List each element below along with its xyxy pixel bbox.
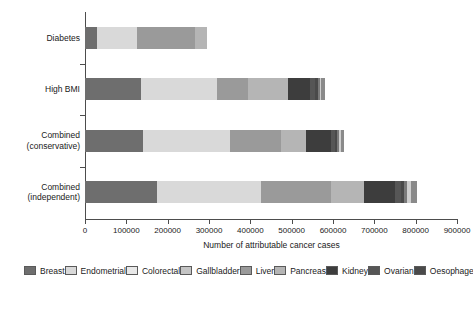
y-axis-label-line: (independent) <box>2 192 80 203</box>
legend-item-breast[interactable]: Breast <box>24 263 65 278</box>
bar-segment-breast <box>85 130 143 152</box>
legend-swatch-breast <box>24 266 36 275</box>
bar-segment-liver <box>230 130 282 152</box>
x-axis-tick-label: 700000 <box>361 226 388 236</box>
bar-segment-endometrial <box>157 181 260 203</box>
bar-2 <box>85 78 325 100</box>
legend-label: Gallbladder <box>196 266 239 276</box>
bar-segment-thyroid <box>411 181 418 203</box>
bar-3 <box>85 130 344 152</box>
bar-segment-thyroid <box>321 78 324 100</box>
legend-item-gallbladder[interactable]: Gallbladder <box>180 263 239 278</box>
chart-figure: DiabetesHigh BMICombined(conservative)Co… <box>0 0 473 309</box>
y-axis-tick <box>80 115 85 116</box>
bar-segment-kidney <box>364 181 395 203</box>
bar-segment-endometrial <box>143 130 230 152</box>
legend-label: Pancreas <box>290 266 326 276</box>
x-axis-tick-label: 400000 <box>237 226 264 236</box>
legend-label: Endometrial <box>81 266 126 276</box>
chart-legend: BreastEndometrialColorectalGallbladderLi… <box>24 263 464 278</box>
legend-label: Liver <box>256 266 274 276</box>
bar-segment-breast <box>85 181 157 203</box>
legend-swatch-pancreas <box>274 266 286 275</box>
legend-swatch-kidney <box>326 266 338 275</box>
x-axis-tick-label: 300000 <box>196 226 223 236</box>
x-axis-tick <box>416 219 417 224</box>
x-axis-title: Number of attributable cancer cases <box>85 240 458 251</box>
bar-segment-pancreas <box>281 130 306 152</box>
x-axis-tick <box>292 219 293 224</box>
x-axis-tick-label: 0 <box>83 226 87 236</box>
x-axis-tick-label: 100000 <box>113 226 140 236</box>
legend-swatch-oesophageal <box>414 266 426 275</box>
legend-label: Colorectal <box>142 266 180 276</box>
bar-segment-liver <box>137 27 195 49</box>
bar-segment-kidney <box>288 78 311 100</box>
x-axis-tick <box>333 219 334 224</box>
y-axis-label-line: (conservative) <box>2 141 80 152</box>
legend-item-kidney[interactable]: Kidney <box>326 263 368 278</box>
legend-swatch-gallbladder <box>180 266 192 275</box>
bar-segment-liver <box>261 181 331 203</box>
x-axis-tick-label: 200000 <box>154 226 181 236</box>
legend-label: Oesophageal <box>430 266 473 276</box>
x-axis-tick <box>457 219 458 224</box>
bar-segment-pancreas <box>331 181 364 203</box>
legend-item-oesophageal[interactable]: Oesophageal <box>414 263 473 278</box>
plot-area <box>85 12 457 218</box>
x-axis-tick <box>126 219 127 224</box>
x-axis-line <box>85 219 458 220</box>
legend-swatch-colorectal <box>126 266 138 275</box>
legend-item-endometrial[interactable]: Endometrial <box>65 263 126 278</box>
bar-4 <box>85 181 417 203</box>
x-axis-tick-label: 900000 <box>444 226 471 236</box>
y-axis-label-line: Diabetes <box>2 33 80 44</box>
x-axis-tick-label: 500000 <box>278 226 305 236</box>
bar-segment-breast <box>85 78 141 100</box>
x-axis-tick <box>250 219 251 224</box>
x-axis-tick-label: 800000 <box>402 226 429 236</box>
legend-item-ovarian[interactable]: Ovarian <box>368 263 414 278</box>
y-axis-label-line: Combined <box>2 130 80 141</box>
bar-segment-breast <box>85 27 97 49</box>
y-axis-label-4: Combined(independent) <box>2 182 80 203</box>
bar-1 <box>85 27 207 49</box>
legend-item-pancreas[interactable]: Pancreas <box>274 263 326 278</box>
legend-swatch-liver <box>240 266 252 275</box>
legend-item-liver[interactable]: Liver <box>240 263 274 278</box>
x-axis-tick-label: 600000 <box>320 226 347 236</box>
legend-label: Ovarian <box>384 266 414 276</box>
bar-segment-endometrial <box>97 27 136 49</box>
y-axis-tick <box>80 64 85 65</box>
x-axis-tick <box>209 219 210 224</box>
y-axis-label-2: High BMI <box>2 84 80 95</box>
bar-segment-pancreas <box>248 78 287 100</box>
bar-segment-thyroid <box>341 130 344 152</box>
bar-segment-endometrial <box>141 78 217 100</box>
y-axis-tick <box>80 167 85 168</box>
y-axis-label-3: Combined(conservative) <box>2 130 80 151</box>
x-axis-tick <box>168 219 169 224</box>
legend-swatch-endometrial <box>65 266 77 275</box>
bar-segment-liver <box>217 78 248 100</box>
x-axis-tick <box>85 219 86 224</box>
x-axis-tick <box>374 219 375 224</box>
bar-segment-pancreas <box>195 27 207 49</box>
legend-item-colorectal[interactable]: Colorectal <box>126 263 180 278</box>
legend-swatch-ovarian <box>368 266 380 275</box>
legend-label: Breast <box>40 266 65 276</box>
bar-segment-kidney <box>306 130 331 152</box>
y-axis-label-1: Diabetes <box>2 33 80 44</box>
y-axis-label-line: Combined <box>2 182 80 193</box>
y-axis-label-line: High BMI <box>2 84 80 95</box>
legend-label: Kidney <box>342 266 368 276</box>
